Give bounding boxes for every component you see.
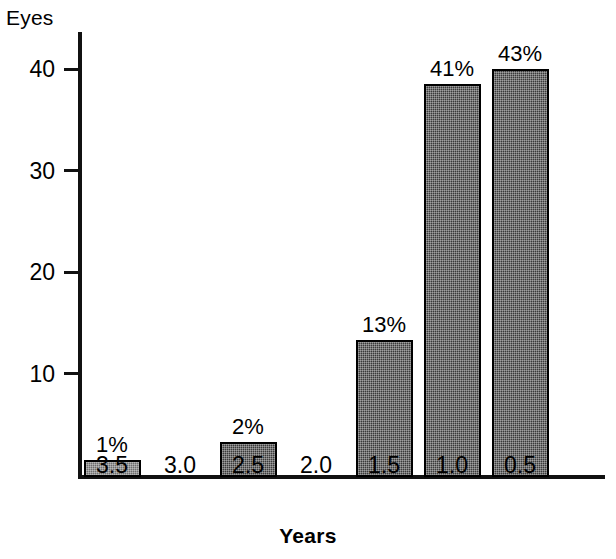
bar-chart: Eyes 10203040 1%2%13%41%43% 3.53.02.52.0… (0, 0, 616, 559)
y-axis-line (78, 32, 82, 479)
x-axis-label-1.0: 1.0 (436, 452, 468, 478)
y-axis-tick-label: 30 (29, 159, 55, 182)
x-axis-label-3.5: 3.5 (96, 452, 128, 478)
x-axis-title: Years (0, 524, 616, 548)
y-axis-tick-label: 20 (29, 261, 55, 284)
y-axis-tick-10: 10 (64, 372, 78, 375)
y-axis-tick-label: 10 (29, 362, 55, 385)
y-axis-tick-label: 40 (29, 58, 55, 81)
x-axis-label-0.5: 0.5 (504, 452, 536, 478)
y-axis-tick-30: 30 (64, 169, 78, 172)
x-axis-label-1.5: 1.5 (368, 452, 400, 478)
y-axis-title: Eyes (6, 6, 54, 30)
y-axis-tick-20: 20 (64, 271, 78, 274)
x-axis-label-3.0: 3.0 (164, 452, 196, 478)
bar-value-label: 13% (362, 313, 406, 337)
x-axis-label-2.0: 2.0 (300, 452, 332, 478)
bar-value-label: 2% (232, 415, 264, 439)
bar-0.5: 43% (492, 69, 549, 477)
y-axis-tick-40: 40 (64, 68, 78, 71)
x-axis-label-2.5: 2.5 (232, 452, 264, 478)
bar-value-label: 43% (498, 42, 542, 66)
bar-value-label: 41% (430, 57, 474, 81)
plot-area: 10203040 1%2%13%41%43% (78, 32, 605, 479)
bar-1.0: 41% (424, 84, 481, 477)
